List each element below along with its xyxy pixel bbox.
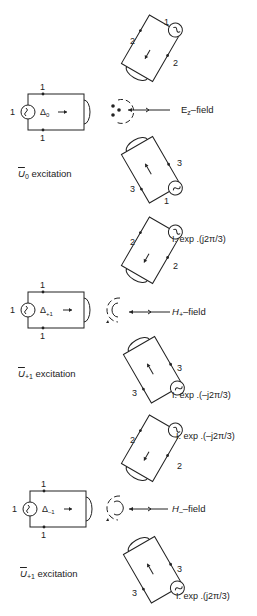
port3-amplitude: I. exp .(j2π/3)	[176, 591, 230, 601]
terminal-2-b: 2	[173, 261, 178, 271]
h-minus-field-symbol	[106, 496, 168, 521]
terminal-3-a: 3	[177, 158, 182, 168]
terminal-1-bottom: 1	[41, 530, 46, 540]
port2-amplitude: I. exp .(–j2π/3)	[176, 431, 235, 441]
port1-circuit	[21, 291, 90, 330]
port1-circuit	[23, 490, 92, 529]
terminal-1-top: 1	[40, 280, 45, 290]
caption-u-minus1-excitation: U+1 excitation	[20, 568, 78, 580]
panel-u-plus1-excitation: 1 1 1 Δ+1 2 2 3 3 I. exp .(j2π/3) I. exp…	[0, 205, 257, 410]
ez-field-symbol	[111, 99, 170, 123]
port3-amplitude: I. exp .(–j2π/3)	[172, 390, 231, 400]
terminal-1-top: 1	[40, 82, 45, 92]
port1-circuit	[21, 93, 90, 132]
port2-number: 1	[164, 17, 169, 27]
source-label: Δ0	[40, 107, 50, 118]
port2-circuit	[117, 408, 185, 487]
source-label: Δ+1	[40, 305, 54, 317]
port1-number: 1	[12, 504, 17, 514]
caption-u0-excitation: U0 excitation	[18, 168, 72, 180]
port2-circuit	[117, 8, 185, 87]
panel-u0-excitation: 1 1 1 Δ0 1 2 2 3 3 1 Ez–field U0 excitat…	[0, 0, 257, 205]
terminal-2-b: 2	[177, 461, 182, 471]
terminal-1-bottom: 1	[40, 331, 45, 341]
terminal-3-a: 3	[177, 564, 182, 574]
terminal-3-b: 3	[132, 588, 137, 598]
circuit-diagram-u-minus1: 1 1 1 Δ–1 2 2 3 3 I. exp .(–j2π/3) I. ex…	[0, 410, 257, 616]
caption-u-plus1-excitation: U+1 excitation	[18, 368, 76, 380]
port1-number: 1	[10, 107, 15, 117]
terminal-3-b: 3	[132, 388, 137, 398]
field-label-h-minus: H––field	[172, 503, 206, 515]
source-label: Δ–1	[42, 504, 55, 515]
terminal-2-a: 2	[130, 237, 135, 247]
panel-u-minus1-excitation: 1 1 1 Δ–1 2 2 3 3 I. exp .(–j2π/3) I. ex…	[0, 410, 257, 615]
terminal-2-a: 2	[130, 435, 135, 445]
h-plus-field-symbol	[106, 298, 170, 323]
port1-number: 1	[10, 305, 15, 315]
terminal-2-b: 2	[173, 58, 178, 68]
terminal-1-top: 1	[41, 479, 46, 489]
terminal-2-a: 2	[130, 36, 135, 46]
terminal-3-b: 3	[130, 184, 135, 194]
port2-amplitude: I. exp .(j2π/3)	[172, 234, 226, 244]
terminal-3-a: 3	[177, 363, 182, 373]
field-label-h-plus: H+–field	[172, 306, 206, 318]
port3-circuit	[117, 131, 185, 210]
field-label-ez: Ez–field	[181, 104, 214, 116]
port2-circuit	[117, 210, 185, 289]
terminal-1-bottom: 1	[40, 133, 45, 143]
